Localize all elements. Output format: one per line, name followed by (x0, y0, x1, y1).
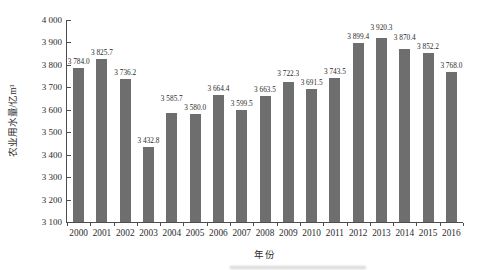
bar-value-label-2000: 3 784.0 (68, 57, 90, 66)
x-tick-label-2013: 2013 (372, 228, 391, 238)
bar-value-label-2002: 3 736.2 (114, 68, 136, 77)
x-axis-line (66, 222, 463, 223)
x-axis-tick (323, 223, 324, 226)
y-tick-label: 3 900 (28, 37, 62, 47)
x-tick-label-2009: 2009 (279, 228, 298, 238)
bar-value-label-2015: 3 852.2 (417, 42, 439, 51)
x-tick-label-2007: 2007 (232, 228, 251, 238)
x-axis-tick (230, 223, 231, 226)
bar-2006 (213, 95, 224, 222)
bar-value-label-2014: 3 870.4 (394, 33, 416, 42)
x-tick-label-2014: 2014 (395, 228, 414, 238)
bar-value-label-2011: 3 743.5 (324, 67, 346, 76)
x-axis-tick (277, 223, 278, 226)
bar-value-label-2003: 3 432.8 (138, 136, 160, 145)
bar-2000 (73, 68, 84, 222)
x-axis-tick (347, 223, 348, 226)
bar-value-label-2009: 3 722.3 (277, 69, 299, 78)
x-axis-tick (300, 223, 301, 226)
x-tick-label-2010: 2010 (302, 228, 321, 238)
x-axis-tick (370, 223, 371, 226)
bar-2011 (329, 78, 340, 222)
cropped-caption-remnant (230, 266, 366, 269)
x-tick-label-2000: 2000 (69, 228, 88, 238)
y-axis-title: 农业用水量/亿m³ (5, 85, 19, 158)
y-axis-tick (67, 155, 71, 156)
x-axis-tick (463, 223, 464, 226)
y-tick-label: 3 600 (28, 105, 62, 115)
bar-value-label-2012: 3 899.4 (347, 32, 369, 41)
bar-2010 (306, 89, 317, 222)
x-tick-label-2004: 2004 (163, 228, 182, 238)
y-tick-label: 3 100 (28, 217, 62, 227)
y-tick-label: 3 500 (28, 127, 62, 137)
bar-value-label-2010: 3 691.5 (301, 78, 323, 87)
bar-value-label-2001: 3 825.7 (91, 48, 113, 57)
y-tick-label: 3 700 (28, 82, 62, 92)
y-tick-label: 3 400 (28, 150, 62, 160)
y-tick-label: 3 200 (28, 195, 62, 205)
bar-2004 (166, 113, 177, 222)
x-axis-tick (160, 223, 161, 226)
bar-2014 (399, 49, 410, 222)
x-tick-label-2006: 2006 (209, 228, 228, 238)
y-axis-tick (67, 200, 71, 201)
bar-2007 (236, 110, 247, 222)
x-tick-label-2001: 2001 (93, 228, 112, 238)
x-tick-label-2005: 2005 (186, 228, 205, 238)
bar-2012 (353, 43, 364, 222)
bar-value-label-2005: 3 580.0 (184, 103, 206, 112)
x-tick-label-2015: 2015 (419, 228, 438, 238)
x-axis-tick (114, 223, 115, 226)
x-axis-tick (67, 223, 68, 226)
bar-value-label-2007: 3 599.5 (231, 99, 253, 108)
x-axis-tick (416, 223, 417, 226)
bar-2009 (283, 82, 294, 222)
y-tick-label: 3 300 (28, 172, 62, 182)
x-tick-label-2008: 2008 (256, 228, 275, 238)
y-tick-label: 3 800 (28, 60, 62, 70)
bar-value-label-2016: 3 768.0 (440, 61, 462, 70)
bar-2015 (423, 53, 434, 222)
x-axis-tick (90, 223, 91, 226)
y-axis-tick (67, 87, 71, 88)
x-tick-label-2002: 2002 (116, 228, 135, 238)
y-axis-tick (67, 177, 71, 178)
y-axis-tick (67, 110, 71, 111)
x-axis-title: 年份 (254, 247, 276, 261)
x-tick-label-2016: 2016 (442, 228, 461, 238)
x-tick-label-2011: 2011 (326, 228, 344, 238)
x-axis-tick (393, 223, 394, 226)
bar-chart-figure: 农业用水量/亿m³ 年份 3 1003 2003 3003 4003 5003 … (0, 0, 486, 270)
x-axis-tick (183, 223, 184, 226)
bar-2013 (376, 38, 387, 222)
x-axis-tick (440, 223, 441, 226)
bar-2002 (120, 79, 131, 222)
bar-2016 (446, 72, 457, 222)
bar-value-label-2006: 3 664.4 (207, 84, 229, 93)
y-axis-line (66, 20, 67, 222)
bar-2008 (260, 96, 271, 222)
x-tick-label-2012: 2012 (349, 228, 368, 238)
bar-value-label-2008: 3 663.5 (254, 85, 276, 94)
y-axis-tick (67, 132, 71, 133)
bar-value-label-2013: 3 920.3 (371, 23, 393, 32)
y-axis-tick (67, 42, 71, 43)
x-axis-tick (207, 223, 208, 226)
y-axis-tick (67, 20, 71, 21)
bar-2001 (96, 59, 107, 222)
x-axis-tick (137, 223, 138, 226)
bar-2005 (190, 114, 201, 222)
bar-2003 (143, 147, 154, 222)
y-tick-label: 4 000 (28, 15, 62, 25)
bar-value-label-2004: 3 585.7 (161, 94, 183, 103)
x-axis-tick (253, 223, 254, 226)
x-tick-label-2003: 2003 (139, 228, 158, 238)
